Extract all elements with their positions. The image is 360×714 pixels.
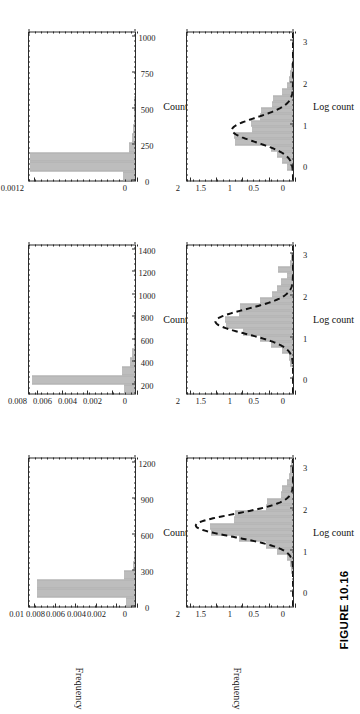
x-minor-tick-top bbox=[28, 280, 30, 281]
x-minor-tick bbox=[292, 525, 294, 526]
x-minor-tick bbox=[134, 61, 136, 62]
x-minor-tick-top bbox=[28, 328, 30, 329]
x-minor-tick-top bbox=[186, 541, 188, 542]
y-minor-tick bbox=[119, 392, 120, 394]
x-tick-label: 1000 bbox=[133, 290, 161, 300]
x-minor-tick bbox=[292, 387, 294, 388]
y-minor-tick bbox=[271, 605, 272, 607]
y-tick-label: 2 bbox=[142, 182, 180, 192]
y-minor-tick bbox=[71, 392, 72, 394]
y-minor-tick bbox=[83, 179, 84, 181]
y-axis-title: Frequency bbox=[74, 653, 85, 714]
x-minor-tick-top bbox=[186, 280, 188, 281]
x-minor-tick bbox=[292, 573, 294, 574]
x-minor-tick-top bbox=[28, 285, 30, 286]
y-minor-tick-right bbox=[131, 31, 132, 33]
x-minor-tick-top bbox=[28, 509, 30, 510]
x-minor-tick-top bbox=[186, 168, 188, 169]
x-minor-tick-top bbox=[28, 338, 30, 339]
y-minor-tick bbox=[247, 179, 248, 181]
x-major-tick bbox=[132, 107, 136, 108]
y-minor-tick bbox=[205, 605, 206, 607]
y-minor-tick-right bbox=[247, 31, 248, 33]
y-minor-tick-right bbox=[113, 244, 114, 246]
x-minor-tick bbox=[134, 77, 136, 78]
y-minor-tick-right bbox=[65, 457, 66, 459]
y-minor-tick-right bbox=[53, 31, 54, 33]
x-minor-tick-top bbox=[186, 344, 188, 345]
x-minor-tick-top bbox=[186, 589, 188, 590]
x-minor-tick bbox=[134, 541, 136, 542]
y-minor-tick bbox=[193, 605, 194, 607]
panel-bottom-middle: 012300.511.52Log count bbox=[186, 244, 294, 394]
x-minor-tick-top bbox=[186, 460, 188, 461]
y-minor-tick-right bbox=[205, 457, 206, 459]
y-minor-tick-right bbox=[119, 244, 120, 246]
x-minor-tick-top bbox=[28, 455, 30, 456]
y-minor-tick-right bbox=[295, 244, 296, 246]
x-minor-tick-top bbox=[28, 104, 30, 105]
x-minor-tick-top bbox=[186, 328, 188, 329]
y-minor-tick bbox=[229, 392, 230, 394]
x-major-tick bbox=[132, 360, 136, 361]
x-minor-tick bbox=[134, 312, 136, 313]
x-minor-tick-top bbox=[28, 274, 30, 275]
x-minor-tick bbox=[292, 344, 294, 345]
y-minor-tick-right bbox=[199, 457, 200, 459]
y-minor-tick-right bbox=[89, 457, 90, 459]
y-minor-tick-right bbox=[77, 31, 78, 33]
y-major-tick bbox=[34, 603, 35, 607]
x-major-tick bbox=[132, 461, 136, 462]
x-minor-tick-top bbox=[28, 498, 30, 499]
x-minor-tick-top bbox=[28, 168, 30, 169]
y-minor-tick bbox=[107, 605, 108, 607]
y-minor-tick bbox=[89, 179, 90, 181]
plot-box bbox=[186, 244, 294, 394]
x-minor-tick bbox=[292, 317, 294, 318]
y-minor-tick-right bbox=[217, 244, 218, 246]
y-minor-tick-right bbox=[205, 31, 206, 33]
plot-box bbox=[186, 31, 294, 181]
y-minor-tick bbox=[29, 392, 30, 394]
y-minor-tick bbox=[253, 392, 254, 394]
x-minor-tick bbox=[292, 263, 294, 264]
x-minor-tick-top bbox=[28, 40, 30, 41]
x-minor-tick-top bbox=[186, 322, 188, 323]
x-minor-tick bbox=[292, 312, 294, 313]
y-minor-tick bbox=[101, 179, 102, 181]
y-major-tick bbox=[96, 603, 97, 607]
histogram-bar bbox=[37, 579, 135, 588]
x-minor-tick-top bbox=[186, 158, 188, 159]
y-minor-tick bbox=[101, 605, 102, 607]
x-minor-tick-top bbox=[28, 460, 30, 461]
y-minor-tick bbox=[229, 605, 230, 607]
x-minor-tick bbox=[134, 376, 136, 377]
plot-area bbox=[29, 458, 135, 606]
y-minor-tick bbox=[265, 392, 266, 394]
x-minor-tick bbox=[134, 514, 136, 515]
x-major-tick bbox=[132, 143, 136, 144]
x-minor-tick-top bbox=[186, 40, 188, 41]
y-major-tick bbox=[295, 177, 296, 181]
x-minor-tick bbox=[134, 56, 136, 57]
y-minor-tick bbox=[229, 179, 230, 181]
y-minor-tick bbox=[211, 605, 212, 607]
x-minor-tick-top bbox=[28, 589, 30, 590]
y-minor-tick-right bbox=[283, 244, 284, 246]
x-minor-tick bbox=[292, 280, 294, 281]
y-minor-tick-right bbox=[47, 457, 48, 459]
y-minor-tick bbox=[59, 179, 60, 181]
y-minor-tick bbox=[65, 179, 66, 181]
y-minor-tick bbox=[265, 605, 266, 607]
x-tick-label: 600 bbox=[133, 335, 161, 345]
y-tick-label: 0.01 bbox=[0, 608, 24, 618]
x-minor-tick-top bbox=[186, 557, 188, 558]
y-minor-tick-right bbox=[83, 31, 84, 33]
y-minor-tick bbox=[253, 179, 254, 181]
x-major-tick bbox=[132, 497, 136, 498]
x-minor-tick-top bbox=[28, 109, 30, 110]
y-minor-tick bbox=[289, 392, 290, 394]
x-minor-tick-top bbox=[28, 365, 30, 366]
y-minor-tick bbox=[119, 605, 120, 607]
x-minor-tick-top bbox=[186, 67, 188, 68]
